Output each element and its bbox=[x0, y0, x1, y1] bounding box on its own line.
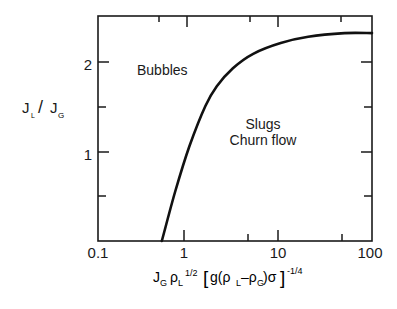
y-axis-ticks bbox=[98, 62, 109, 196]
svg-text:g(ρ: g(ρ bbox=[210, 269, 230, 285]
svg-text:J: J bbox=[50, 99, 58, 116]
x-axis-ticks bbox=[184, 230, 342, 241]
svg-text:G: G bbox=[160, 278, 167, 288]
y-tick-label-2: 2 bbox=[84, 56, 92, 73]
x-tick-label-10: 10 bbox=[270, 244, 287, 261]
svg-text:–ρ: –ρ bbox=[241, 269, 257, 285]
svg-text:L: L bbox=[178, 278, 183, 288]
svg-text:-1/4: -1/4 bbox=[287, 266, 303, 276]
svg-text:G: G bbox=[58, 111, 64, 120]
region-label-slugs: Slugs bbox=[245, 116, 280, 132]
x-tick-label-0.1: 0.1 bbox=[88, 244, 109, 261]
y-tick-label-1: 1 bbox=[84, 146, 92, 163]
y-axis-label: J L / J G bbox=[22, 97, 64, 120]
flow-regime-chart: 1 2 0.1 1 10 100 Bubbles Slugs Churn flo… bbox=[0, 0, 397, 309]
x-axis-label: J G ρ L 1/2 [ g(ρ L –ρ G )σ ] -1/4 bbox=[153, 266, 303, 288]
plot-frame bbox=[98, 16, 372, 241]
x-tick-label-100: 100 bbox=[357, 244, 382, 261]
x-tick-label-1: 1 bbox=[180, 244, 188, 261]
svg-text:/: / bbox=[38, 97, 43, 117]
svg-text:L: L bbox=[31, 112, 35, 119]
svg-text:J: J bbox=[153, 269, 160, 285]
svg-text:J: J bbox=[22, 99, 30, 116]
y-axis-ticks-right bbox=[361, 62, 372, 196]
region-label-bubbles: Bubbles bbox=[137, 62, 188, 78]
svg-text:]: ] bbox=[280, 267, 285, 288]
svg-text:)σ: )σ bbox=[263, 269, 277, 285]
svg-text:ρ: ρ bbox=[170, 269, 178, 285]
x-axis-ticks-top bbox=[159, 16, 341, 27]
svg-text:1/2: 1/2 bbox=[185, 268, 198, 278]
region-label-churn: Churn flow bbox=[230, 132, 298, 148]
svg-text:[: [ bbox=[203, 267, 209, 288]
